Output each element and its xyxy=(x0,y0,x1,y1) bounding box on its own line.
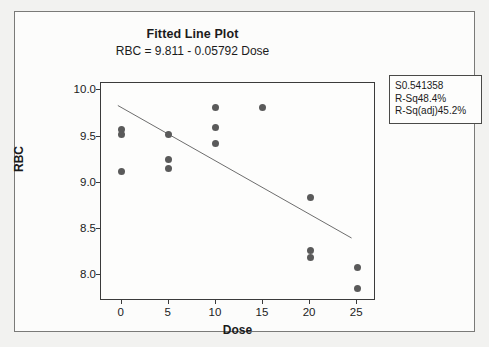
plot-svg xyxy=(101,83,374,299)
stat-row-s: S0.541358 xyxy=(395,80,476,93)
stat-label-rsq: R-Sq xyxy=(395,93,418,104)
x-tick-label: 25 xyxy=(336,306,376,318)
chart-subtitle: RBC = 9.811 - 0.05792 Dose xyxy=(15,44,370,58)
plot-area xyxy=(100,82,375,300)
x-tick-mark xyxy=(121,300,122,304)
stat-value-rsq-adj: 45.2% xyxy=(438,105,466,116)
x-tick-mark xyxy=(309,300,310,304)
y-tick-label: 10.0 xyxy=(56,83,96,95)
x-tick-mark xyxy=(262,300,263,304)
x-tick-label: 0 xyxy=(101,306,141,318)
y-tick-label: 8.5 xyxy=(56,222,96,234)
x-tick-label: 15 xyxy=(242,306,282,318)
x-axis-title: Dose xyxy=(100,323,375,337)
stat-value-rsq: 48.4% xyxy=(418,93,446,104)
x-tick-label: 20 xyxy=(289,306,329,318)
stat-row-rsq-adj: R-Sq(adj)45.2% xyxy=(395,105,476,118)
regression-line xyxy=(118,105,352,238)
x-tick-mark xyxy=(168,300,169,304)
x-tick-mark xyxy=(215,300,216,304)
y-axis-title: RBC xyxy=(12,146,26,172)
x-tick-label: 5 xyxy=(148,306,188,318)
y-axis-tick-labels: 8.08.59.09.510.0 xyxy=(53,82,96,300)
data-point xyxy=(307,194,314,201)
x-tick-mark xyxy=(356,300,357,304)
data-point xyxy=(307,254,314,261)
stat-row-rsq: R-Sq48.4% xyxy=(395,93,476,106)
data-point xyxy=(354,264,361,271)
y-tick-label: 9.5 xyxy=(56,130,96,142)
statistics-legend-box: S0.541358 R-Sq48.4% R-Sq(adj)45.2% xyxy=(389,75,482,124)
stat-label-s: S xyxy=(395,80,402,91)
y-tick-label: 9.0 xyxy=(56,176,96,188)
figure-frame: Fitted Line Plot RBC = 9.811 - 0.05792 D… xyxy=(14,11,475,332)
screenshot-canvas: Fitted Line Plot RBC = 9.811 - 0.05792 D… xyxy=(0,0,489,347)
stat-value-s: 0.541358 xyxy=(402,80,444,91)
data-point xyxy=(212,140,219,147)
data-point xyxy=(307,247,314,254)
x-tick-label: 10 xyxy=(195,306,235,318)
stat-label-rsq-adj: R-Sq(adj) xyxy=(395,105,438,116)
y-tick-label: 8.0 xyxy=(56,268,96,280)
chart-title: Fitted Line Plot xyxy=(15,27,370,41)
